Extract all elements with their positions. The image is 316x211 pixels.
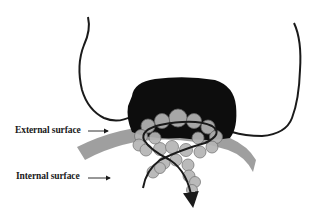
internal-surface-label: Internal surface (16, 171, 80, 181)
left-chain-loop (79, 17, 132, 121)
right-chain-loop (232, 23, 300, 136)
external-surface-label: External surface (15, 125, 81, 135)
